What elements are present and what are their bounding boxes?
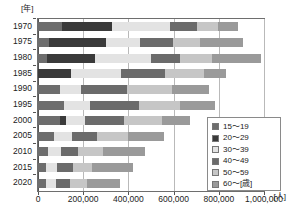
bar-segment xyxy=(38,163,46,172)
bar-segment xyxy=(165,69,203,78)
bar-segment xyxy=(71,69,122,78)
stacked-bar xyxy=(38,38,243,47)
bar-segment xyxy=(127,85,172,94)
bar-row xyxy=(38,85,264,94)
bar-segment xyxy=(204,69,226,78)
y-axis-unit-label: [年] xyxy=(21,2,33,13)
bar-segment xyxy=(57,163,73,172)
legend-label: 30～39 xyxy=(223,146,249,154)
bar-segment xyxy=(38,132,54,141)
stacked-bar xyxy=(38,116,190,125)
y-axis-tick-labels: 1970197519801985199019952000200520102015… xyxy=(0,18,36,192)
bar-segment xyxy=(180,101,215,110)
bar-segment xyxy=(46,163,57,172)
bar-segment xyxy=(106,38,141,47)
bar-segment xyxy=(72,132,98,141)
bar-segment xyxy=(73,163,92,172)
bar-segment xyxy=(200,38,243,47)
bar-segment xyxy=(47,54,95,63)
x-tick-label: 800,000 xyxy=(203,194,234,204)
y-tick-label: 2000 xyxy=(13,115,32,125)
y-tick-label: 2020 xyxy=(13,177,32,187)
bar-segment xyxy=(48,147,61,156)
bar-segment xyxy=(85,116,124,125)
bar-segment xyxy=(212,54,260,63)
y-tick-mark xyxy=(33,174,36,175)
y-tick-mark xyxy=(33,65,36,66)
bar-row xyxy=(38,54,264,63)
y-tick-mark xyxy=(33,159,36,160)
y-tick-label: 2015 xyxy=(13,162,32,172)
bar-segment xyxy=(87,179,120,188)
bar-segment xyxy=(46,179,56,188)
legend-item[interactable]: 50～59 xyxy=(212,167,278,178)
legend-item[interactable]: 20～29 xyxy=(212,133,278,144)
bar-segment xyxy=(180,54,213,63)
bar-segment xyxy=(128,132,164,141)
bar-segment xyxy=(70,179,87,188)
bar-segment xyxy=(173,38,200,47)
stacked-bar xyxy=(38,101,215,110)
stacked-bar xyxy=(38,85,209,94)
y-tick-label: 1990 xyxy=(13,83,32,93)
legend-item[interactable]: 40～49 xyxy=(212,156,278,167)
x-tick-label: 1,000,000 xyxy=(245,194,283,204)
bar-segment xyxy=(61,147,78,156)
y-tick-label: 1975 xyxy=(13,36,32,46)
legend-label: 60～[歳] xyxy=(223,180,252,188)
bar-segment xyxy=(38,147,48,156)
stacked-bar xyxy=(38,54,261,63)
bar-segment xyxy=(140,38,173,47)
bar-segment xyxy=(38,38,49,47)
y-tick-label: 1980 xyxy=(13,52,32,62)
legend-label: 15～19 xyxy=(223,123,249,131)
y-tick-mark xyxy=(33,49,36,50)
y-tick-mark xyxy=(33,112,36,113)
stacked-bar xyxy=(38,132,164,141)
bar-segment xyxy=(218,22,238,31)
y-tick-label: 2010 xyxy=(13,146,32,156)
legend-swatch-60-plus xyxy=(212,181,219,188)
bar-segment xyxy=(170,22,197,31)
bar-segment xyxy=(56,179,71,188)
bar-segment xyxy=(38,101,64,110)
legend-item[interactable]: 60～[歳] xyxy=(212,179,278,190)
x-axis-tick-labels: 0200,000400,000600,000800,0001,000,000 xyxy=(0,194,288,206)
stacked-bar xyxy=(38,179,120,188)
bar-segment xyxy=(64,101,90,110)
chart-legend: 15～1920～2930～3940～4950～5960～[歳] xyxy=(207,117,281,191)
legend-item[interactable]: 30～39 xyxy=(212,144,278,155)
legend-swatch-50-59 xyxy=(212,169,219,176)
stacked-bar xyxy=(38,69,226,78)
bar-row xyxy=(38,38,264,47)
bar-segment xyxy=(38,69,71,78)
stacked-bar xyxy=(38,147,145,156)
y-tick-label: 1970 xyxy=(13,21,32,31)
bar-segment xyxy=(49,38,105,47)
bar-row xyxy=(38,69,264,78)
bar-row xyxy=(38,101,264,110)
bar-segment xyxy=(121,69,165,78)
legend-label: 20～29 xyxy=(223,134,249,142)
bar-segment xyxy=(78,147,103,156)
bar-row xyxy=(38,22,264,31)
x-tick-label: 400,000 xyxy=(113,194,144,204)
bar-segment xyxy=(81,85,127,94)
bar-segment xyxy=(139,101,180,110)
bar-segment xyxy=(95,54,150,63)
y-tick-mark xyxy=(33,34,36,35)
bar-segment xyxy=(90,101,140,110)
legend-item[interactable]: 15～19 xyxy=(212,121,278,132)
bar-segment xyxy=(54,132,72,141)
y-tick-mark xyxy=(33,127,36,128)
bar-segment xyxy=(162,116,190,125)
stacked-bar-chart: [年] [人] 19701975198019851990199520002005… xyxy=(0,0,288,218)
y-tick-mark xyxy=(33,96,36,97)
legend-label: 50～59 xyxy=(223,169,249,177)
legend-swatch-40-49 xyxy=(212,158,219,165)
bar-segment xyxy=(38,85,60,94)
bar-segment xyxy=(66,116,85,125)
y-tick-label: 1985 xyxy=(13,68,32,78)
bar-segment xyxy=(38,54,47,63)
x-tick-label: 0 xyxy=(36,194,41,204)
